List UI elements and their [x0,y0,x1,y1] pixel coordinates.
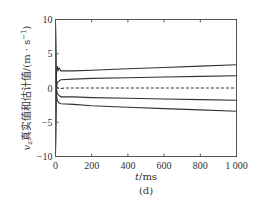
x-tick-label: 400 [120,160,135,171]
y-tick-label: −5 [42,117,53,128]
x-tick-label: 800 [193,160,208,171]
line-chart: 02004006008001 000 1050−5−10 t/ms (d) vz… [0,0,262,206]
series-line-estimate [56,86,237,90]
plot-series-group [56,23,237,153]
svg-text:vz真实值和估计值/(m · s−1): vz真实值和估计值/(m · s−1) [20,25,34,150]
x-axis-ticks: 02004006008001 000 [53,20,248,171]
y-tick-label: −10 [37,151,53,162]
series-line-lower-bound-inner [56,23,237,100]
y-tick-label: 5 [48,48,53,59]
x-tick-label: 1 000 [225,160,248,171]
y-axis-title: vz真实值和估计值/(m · s−1) [20,25,34,150]
x-axis-title: t/ms [135,171,157,182]
x-tick-label: 600 [157,160,172,171]
series-line-lower-bound-outer [56,23,237,111]
x-tick-label: 0 [53,160,58,171]
series-line-upper-bound-outer [56,65,237,153]
x-tick-label: 200 [84,160,99,171]
panel-label: (d) [139,185,153,196]
series-line-upper-bound-inner [56,76,237,153]
y-tick-label: 10 [43,14,53,25]
y-tick-label: 0 [48,83,53,94]
